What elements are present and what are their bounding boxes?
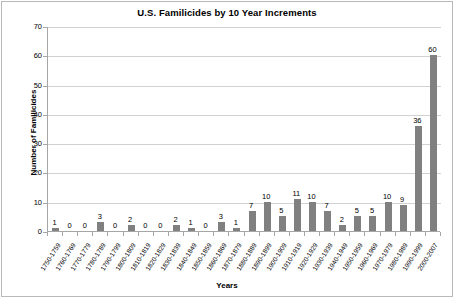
x-axis-tick-mark (47, 232, 48, 236)
x-axis-tick-mark (183, 232, 184, 236)
x-axis-tick-mark (244, 232, 245, 236)
x-axis-tick-mark (334, 232, 335, 236)
chart-title: U.S. Familicides by 10 Year Increments (0, 7, 454, 18)
x-axis-tick-mark (153, 232, 154, 236)
y-axis-tick-label: 70 (20, 22, 42, 31)
grid-line (48, 173, 441, 174)
bar-value-label: 5 (269, 206, 293, 215)
bar-value-label: 2 (330, 215, 354, 224)
bar-value-label: 0 (194, 221, 218, 230)
y-axis-tick-label: 50 (20, 81, 42, 90)
grid-line (48, 144, 441, 145)
bar-value-label: 36 (405, 116, 429, 125)
x-axis-tick-mark (138, 232, 139, 236)
chart-root: U.S. Familicides by 10 Year Increments N… (0, 0, 454, 298)
grid-line (48, 115, 441, 116)
x-axis-tick-mark (168, 232, 169, 236)
bar (233, 228, 240, 231)
bar (354, 216, 361, 231)
x-axis-tick-mark (107, 232, 108, 236)
x-axis-tick-mark (289, 232, 290, 236)
x-axis-tick-mark (274, 232, 275, 236)
bar-value-label: 7 (315, 201, 339, 210)
bar-value-label: 0 (73, 221, 97, 230)
x-axis-tick-mark (304, 232, 305, 236)
bar (339, 225, 346, 231)
x-axis-tick-mark (319, 232, 320, 236)
y-axis-tick-label: 20 (20, 168, 42, 177)
x-axis-tick-mark (380, 232, 381, 236)
bar-value-label: 7 (239, 201, 263, 210)
bar (369, 216, 376, 231)
bar (400, 205, 407, 231)
bar (415, 126, 422, 231)
bar (279, 216, 286, 231)
x-axis-tick-mark (92, 232, 93, 236)
grid-line (48, 56, 441, 57)
x-axis-tick-mark (410, 232, 411, 236)
grid-line (48, 86, 441, 87)
y-axis-tick-label: 10 (20, 198, 42, 207)
y-axis-tick-label: 40 (20, 110, 42, 119)
bar (430, 55, 437, 231)
grid-line (48, 27, 441, 28)
y-axis-tick-label: 0 (20, 227, 42, 236)
y-axis-tick-label: 60 (20, 51, 42, 60)
bar-value-label: 60 (420, 45, 444, 54)
bar (385, 202, 392, 231)
bar-value-label: 5 (360, 206, 384, 215)
x-axis-tick-mark (228, 232, 229, 236)
x-axis-tick-mark (77, 232, 78, 236)
x-axis-tick-mark (395, 232, 396, 236)
bar (249, 211, 256, 232)
x-axis-tick-mark (259, 232, 260, 236)
x-axis-tick-mark (349, 232, 350, 236)
bar (294, 199, 301, 231)
bar-value-label: 9 (390, 195, 414, 204)
x-axis-tick-mark (425, 232, 426, 236)
x-axis-tick-mark (62, 232, 63, 236)
x-axis-tick-mark (123, 232, 124, 236)
bar-value-label: 1 (224, 218, 248, 227)
x-axis-tick-mark (440, 232, 441, 236)
x-axis-tick-mark (213, 232, 214, 236)
bar-value-label: 10 (254, 192, 278, 201)
x-axis-tick-mark (364, 232, 365, 236)
y-axis-tick-label: 30 (20, 139, 42, 148)
bar-value-label: 3 (88, 212, 112, 221)
bar-value-label: 10 (300, 192, 324, 201)
y-axis-title: Number of Familicides (29, 53, 38, 213)
x-axis-tick-mark (198, 232, 199, 236)
